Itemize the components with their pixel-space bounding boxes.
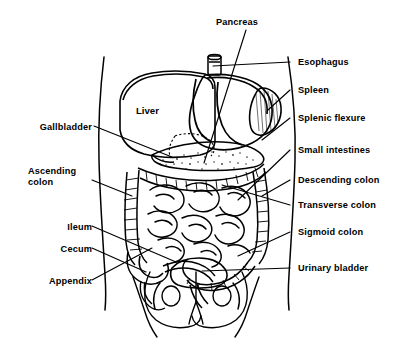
leader-gallbladder bbox=[94, 126, 172, 157]
label-ascending-colon-line2: colon bbox=[28, 177, 53, 187]
leader-cecum bbox=[92, 248, 146, 272]
leader-spleen bbox=[268, 90, 290, 110]
anatomy-diagram: Liver Pancreas Esophagus Spleen Splenic … bbox=[0, 0, 402, 348]
small-intestines bbox=[148, 183, 250, 267]
label-ileum: Ileum bbox=[0, 222, 92, 233]
label-urinary-bladder: Urinary bladder bbox=[298, 263, 368, 274]
leader-sigmoid-colon bbox=[238, 232, 290, 256]
label-sigmoid-colon: Sigmoid colon bbox=[298, 227, 363, 238]
label-cecum: Cecum bbox=[0, 244, 92, 255]
label-pancreas: Pancreas bbox=[216, 17, 258, 28]
stomach bbox=[190, 74, 273, 149]
label-splenic-flexure: Splenic flexure bbox=[298, 113, 366, 124]
organ-label-liver: Liver bbox=[136, 105, 159, 116]
label-ascending-colon: Ascending colon bbox=[0, 166, 92, 187]
sigmoid-colon bbox=[183, 259, 255, 308]
label-esophagus: Esophagus bbox=[298, 57, 349, 68]
leader-lines bbox=[92, 30, 290, 280]
label-descending-colon: Descending colon bbox=[298, 175, 380, 186]
label-appendix: Appendix bbox=[0, 276, 92, 287]
label-small-intestines: Small intestines bbox=[298, 145, 370, 156]
leader-appendix bbox=[92, 248, 152, 280]
ascending-colon bbox=[124, 170, 147, 265]
label-ascending-colon-line1: Ascending bbox=[28, 166, 76, 176]
label-gallbladder: Gallbladder bbox=[0, 122, 92, 133]
leader-pancreas bbox=[204, 30, 246, 163]
leader-esophagus bbox=[213, 62, 290, 66]
label-transverse-colon: Transverse colon bbox=[298, 200, 376, 211]
esophagus bbox=[208, 54, 221, 75]
label-spleen: Spleen bbox=[298, 85, 329, 96]
